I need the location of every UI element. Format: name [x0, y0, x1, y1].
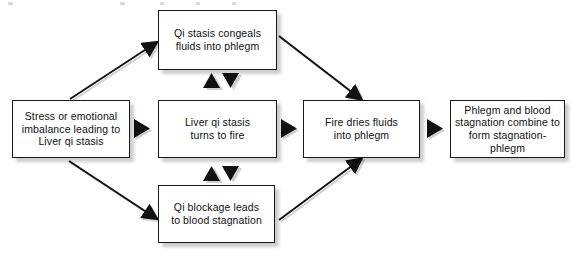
node-label: Liver qi stasis turns to fire — [181, 116, 254, 141]
node-label: Stress or emotional imbalance leading to… — [18, 110, 124, 148]
node-label: Phlegm and blood stagnation combine to f… — [451, 104, 564, 154]
edge-stress-to-congeal — [70, 48, 148, 99]
flowchart-diagram: Stress or emotional imbalance leading to… — [0, 0, 575, 261]
edge-stress-to-blockage — [69, 161, 148, 213]
scan-artifact — [120, 2, 125, 5]
node-qi-blockage-blood-stagnation[interactable]: Qi blockage leads to blood stagnation — [158, 185, 275, 243]
node-liver-qi-stasis-turns-to-fire[interactable]: Liver qi stasis turns to fire — [158, 100, 277, 158]
edge-blockage-to-firedries — [279, 165, 353, 220]
node-label: Qi blockage leads to blood stagnation — [167, 201, 266, 226]
node-fire-dries-fluids-into-phlegm[interactable]: Fire dries fluids into phlegm — [303, 100, 420, 158]
node-stress-emotional-imbalance[interactable]: Stress or emotional imbalance leading to… — [12, 100, 130, 158]
scan-artifact — [8, 2, 13, 5]
scan-artifact — [160, 2, 164, 5]
scan-artifact — [232, 2, 236, 5]
node-qi-stasis-congeals-fluids[interactable]: Qi stasis congeals fluids into phlegm — [158, 10, 277, 70]
node-stagnation-phlegm-combination[interactable]: Phlegm and blood stagnation combine to f… — [450, 100, 565, 158]
scan-artifact — [196, 2, 200, 5]
edge-congeal-to-firedries — [279, 36, 353, 93]
node-label: Qi stasis congeals fluids into phlegm — [170, 27, 265, 52]
node-label: Fire dries fluids into phlegm — [321, 116, 402, 141]
